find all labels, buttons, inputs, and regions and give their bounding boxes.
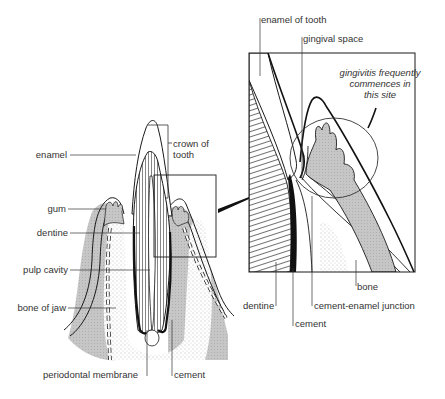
label-inset-dentine: dentine bbox=[243, 300, 274, 311]
gum-right-gray bbox=[172, 206, 189, 226]
annotation-gingivitis: gingivitis frequently commences in this … bbox=[330, 67, 430, 100]
label-gum: gum bbox=[48, 203, 66, 214]
tooth-diagram bbox=[0, 0, 445, 399]
label-bone: bone bbox=[357, 281, 378, 292]
label-gingival-space: gingival space bbox=[303, 33, 363, 44]
label-pulp-cavity: pulp cavity bbox=[23, 264, 68, 275]
label-enamel: enamel bbox=[36, 149, 67, 160]
label-cement-main: cement bbox=[174, 369, 205, 380]
label-periodontal-membrane: periodontal membrane bbox=[43, 369, 138, 380]
label-crown-line1: crown of bbox=[173, 138, 209, 149]
main-view bbox=[64, 121, 249, 377]
annotation-line1: gingivitis frequently bbox=[330, 67, 430, 78]
label-dentine: dentine bbox=[37, 227, 68, 238]
label-bone-of-jaw: bone of jaw bbox=[17, 302, 66, 313]
label-crown-line2: tooth bbox=[173, 149, 209, 160]
label-enamel-of-tooth: enamel of tooth bbox=[261, 14, 327, 25]
inset-connector bbox=[218, 197, 249, 213]
inset-view bbox=[249, 18, 415, 326]
label-cement-enamel-junction: cement-enamel junction bbox=[314, 300, 415, 311]
label-crown-of-tooth: crown of tooth bbox=[173, 138, 209, 160]
gum-left-gray bbox=[104, 202, 124, 226]
label-inset-cement: cement bbox=[295, 318, 326, 329]
annotation-line2: commences in bbox=[330, 78, 430, 89]
annotation-line3: this site bbox=[330, 89, 430, 100]
